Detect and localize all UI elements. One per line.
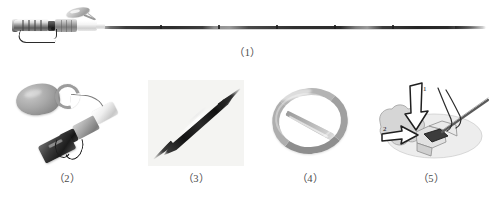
shaft-depth-mark [334, 25, 336, 29]
needle-closeup [154, 86, 240, 162]
panel-3-caption: （3） [148, 170, 244, 185]
figure-plate: （1） （2） （3） （4） [0, 0, 495, 204]
shaft-depth-mark [218, 25, 220, 29]
wire-knot [51, 27, 55, 31]
oval-wing-paddle [65, 5, 90, 19]
panel-1-illustration [0, 0, 495, 48]
arrow-1-label: 1 [423, 85, 427, 93]
panel-3-needle-tip [148, 80, 244, 166]
grip-rib [71, 20, 72, 32]
panel-4-caption: （4） [262, 170, 358, 185]
luer-hub [77, 21, 97, 31]
panel-1-caption: （1） [0, 44, 495, 59]
panel-2-hub-closeup [8, 78, 126, 166]
needle-shaft-shadow [110, 29, 480, 30]
shaft-depth-mark [276, 25, 278, 29]
panel-5-caption: （5） [372, 170, 490, 185]
shaft-depth-mark [392, 25, 394, 29]
grip-rib [61, 20, 62, 32]
insertion-diagram: 1 2 [372, 78, 490, 168]
luer-neck [96, 24, 105, 29]
panel-1-full-assembly [0, 0, 495, 48]
arrow-2-label: 2 [383, 125, 387, 133]
panel-4-coiled-catheter [262, 80, 358, 166]
grip-rib [66, 20, 67, 32]
panel-2-caption: （2） [8, 170, 126, 185]
shaft-depth-mark [160, 25, 162, 29]
panel-5-insertion-illustration: 1 2 [372, 78, 490, 168]
needle-sharp-tip [217, 86, 243, 110]
